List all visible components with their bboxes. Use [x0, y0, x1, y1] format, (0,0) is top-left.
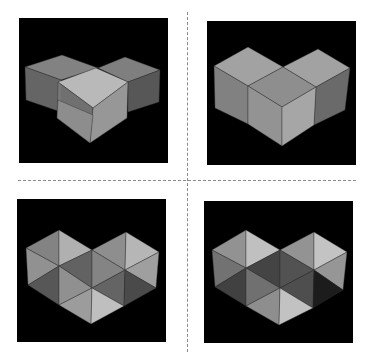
panel-bottom-left [17, 199, 166, 342]
panel-top-right [207, 21, 356, 165]
panel-bottom-right [204, 201, 353, 343]
vertical-dashed-divider [187, 12, 188, 352]
panel-top-left [19, 18, 168, 163]
cube-illustration-three-cubes [19, 18, 168, 163]
cube-illustration-heart [207, 21, 356, 165]
horizontal-dashed-divider [18, 180, 356, 181]
mosaic-illustration-heart-light [17, 199, 166, 342]
mosaic-illustration-heart-dark [204, 201, 353, 343]
